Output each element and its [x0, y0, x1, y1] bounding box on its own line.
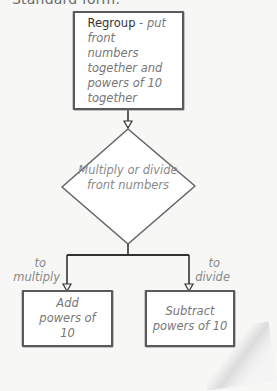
branch-label-multiply: to multiply [10, 256, 60, 284]
regroup-keyword: Regroup [88, 16, 136, 30]
decision-text: Multiply or divide front numbers [78, 163, 178, 193]
branch-label-divide-line2: divide [192, 270, 230, 284]
branch-label-divide-line1: to [192, 256, 230, 270]
add-powers-box: Add powers of 10 [22, 290, 113, 347]
page-curl-decoration [199, 321, 277, 390]
branch-label-multiply-line1: to [10, 256, 60, 270]
add-powers-text: Add powers of 10 [35, 296, 101, 341]
branch-label-multiply-line2: multiply [10, 270, 60, 284]
regroup-step-box: Regroup - put front numbers together and… [73, 11, 184, 110]
branch-label-divide: to divide [192, 256, 230, 284]
